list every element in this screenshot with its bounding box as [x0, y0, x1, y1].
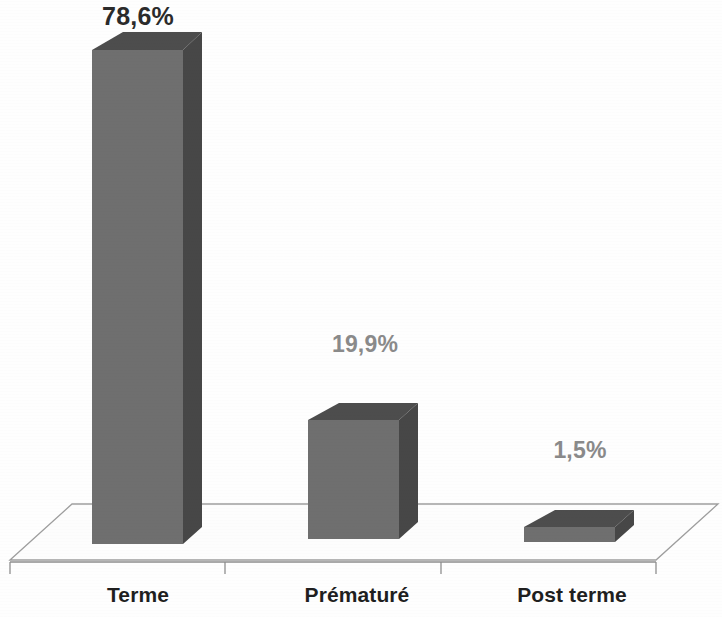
bar-chart: 78,6% 19,9% 1,5% Terme Prématuré Post te… [0, 0, 722, 617]
bar-terme[interactable] [92, 32, 202, 544]
chart-plot-area [0, 0, 722, 617]
category-label-post-terme: Post terme [482, 583, 662, 607]
bar-terme-top-face [92, 32, 202, 50]
bar-post-terme-front-face [524, 527, 615, 542]
bar-prematurite-top-face [308, 403, 418, 420]
bar-prematurite-side-face [399, 403, 418, 539]
bar-terme-front-face [92, 50, 183, 544]
bar-terme-side-face [183, 32, 202, 544]
category-label-terme: Terme [58, 583, 218, 607]
data-label-terme: 78,6% [78, 2, 198, 31]
bar-prematurite[interactable] [308, 403, 418, 539]
data-label-prematurite: 19,9% [305, 331, 425, 358]
bar-prematurite-front-face [308, 420, 399, 539]
category-label-prematurite: Prématuré [272, 583, 442, 607]
data-label-post-terme: 1,5% [525, 437, 635, 464]
